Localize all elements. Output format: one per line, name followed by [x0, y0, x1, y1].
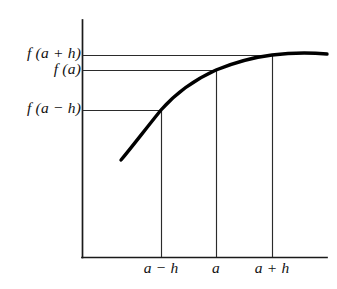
- function-curve: [121, 53, 327, 160]
- calculus-diagram: f (a + h) f (a) f (a − h) a − h a a + h: [0, 0, 337, 289]
- x-label-a-plus-h: a + h: [255, 260, 290, 276]
- x-label-a: a: [212, 260, 220, 276]
- y-label-f-a-minus-h: f (a − h): [27, 100, 81, 116]
- y-label-f-a-plus-h: f (a + h): [27, 45, 81, 61]
- y-label-f-a: f (a): [54, 61, 81, 77]
- x-label-a-minus-h: a − h: [144, 260, 179, 276]
